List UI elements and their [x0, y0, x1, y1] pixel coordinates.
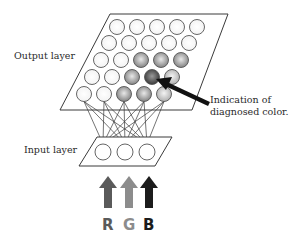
output-node	[145, 70, 160, 85]
channel-label-g: G	[123, 217, 135, 233]
output-node	[174, 53, 189, 68]
output-node	[134, 53, 149, 68]
rgb-input-arrows	[99, 176, 158, 208]
output-node	[122, 36, 137, 51]
input-layer-label: Input layer	[24, 144, 77, 156]
input-node	[117, 144, 133, 160]
output-node	[97, 87, 112, 102]
neural-network-diagram	[0, 0, 292, 243]
output-node	[162, 36, 177, 51]
output-node	[94, 53, 109, 68]
green-channel-arrow-icon	[120, 176, 138, 208]
output-node	[117, 87, 132, 102]
input-nodes	[95, 144, 155, 160]
output-node	[110, 20, 125, 35]
output-node	[102, 36, 117, 51]
output-node	[170, 20, 185, 35]
input-node	[95, 144, 111, 160]
annotation-label-line2: diagnosed color.	[210, 106, 289, 118]
output-node	[150, 20, 165, 35]
output-node	[114, 53, 129, 68]
output-node	[157, 87, 172, 102]
output-layer-label: Output layer	[14, 50, 75, 62]
output-node	[77, 87, 92, 102]
output-node	[142, 36, 157, 51]
input-node	[139, 144, 155, 160]
channel-label-b: B	[143, 217, 154, 233]
output-node	[130, 20, 145, 35]
output-node	[125, 70, 140, 85]
output-node	[182, 36, 197, 51]
output-node	[137, 87, 152, 102]
output-node	[85, 70, 100, 85]
output-node	[105, 70, 120, 85]
output-node	[154, 53, 169, 68]
blue-channel-arrow-icon	[140, 176, 158, 208]
channel-label-r: R	[102, 217, 114, 233]
red-channel-arrow-icon	[99, 176, 117, 208]
output-node	[190, 20, 205, 35]
annotation-label-line1: Indication of	[210, 94, 271, 106]
